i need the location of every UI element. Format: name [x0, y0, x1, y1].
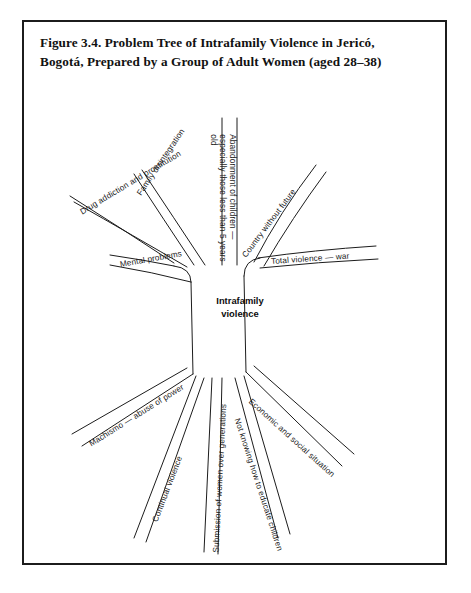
core-problem-label: Intrafamily violence	[192, 294, 288, 320]
root-line-machismo-abuse-of-power	[72, 368, 193, 446]
core-problem-line-2: violence	[221, 308, 259, 319]
figure-frame: Figure 3.4. Problem Tree of Intrafamily …	[22, 20, 447, 565]
branch-label-abandonment-of-children: Abandonment of children — especially tho…	[209, 134, 238, 274]
root-line-continual-violence	[134, 376, 204, 542]
core-problem-line-1: Intrafamily	[216, 295, 263, 306]
